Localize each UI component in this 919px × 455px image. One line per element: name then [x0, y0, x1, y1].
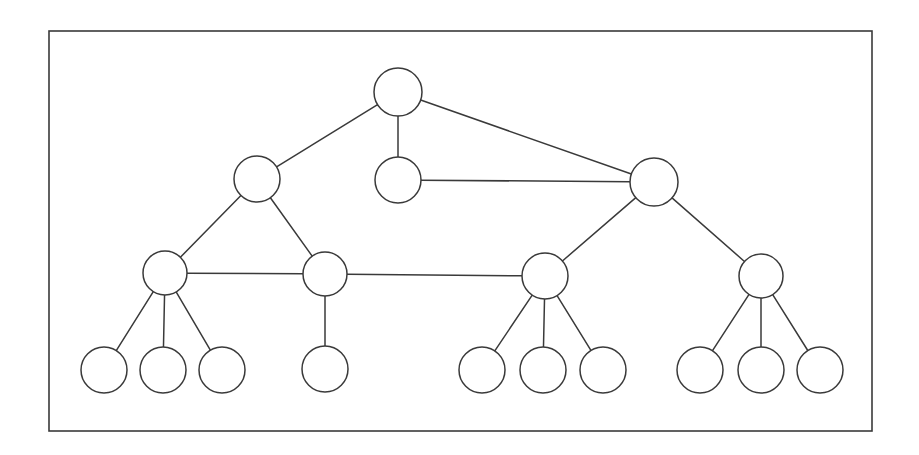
graph-node[interactable] — [797, 347, 843, 393]
node-graph-diagram — [0, 0, 919, 455]
graph-edge — [163, 295, 164, 347]
graph-edge — [116, 292, 153, 351]
graph-node-circle[interactable] — [459, 347, 505, 393]
graph-node[interactable] — [302, 346, 348, 392]
graph-edge — [672, 198, 744, 262]
graph-node-circle[interactable] — [580, 347, 626, 393]
graph-node[interactable] — [580, 347, 626, 393]
graph-node-circle[interactable] — [374, 68, 422, 116]
graph-node-circle[interactable] — [302, 346, 348, 392]
graph-node[interactable] — [520, 347, 566, 393]
graph-edge — [347, 274, 522, 276]
graph-edge — [557, 296, 591, 351]
graph-node-circle[interactable] — [140, 347, 186, 393]
graph-edge — [176, 292, 210, 350]
graph-edge — [543, 299, 544, 347]
graph-node-circle[interactable] — [303, 252, 347, 296]
graph-node-circle[interactable] — [520, 347, 566, 393]
graph-node[interactable] — [303, 252, 347, 296]
graph-edge — [180, 195, 241, 257]
graph-edge — [187, 273, 303, 274]
graph-node[interactable] — [234, 156, 280, 202]
graph-edge — [270, 198, 312, 256]
graph-node-circle[interactable] — [375, 157, 421, 203]
graph-node[interactable] — [459, 347, 505, 393]
graph-node-circle[interactable] — [143, 251, 187, 295]
graph-edge — [421, 180, 630, 182]
graph-edge — [562, 198, 635, 261]
graph-edges-layer — [116, 100, 808, 351]
graph-node-circle[interactable] — [630, 158, 678, 206]
graph-node-circle[interactable] — [199, 347, 245, 393]
graph-edge — [713, 294, 750, 350]
graph-node[interactable] — [522, 253, 568, 299]
graph-node-circle[interactable] — [81, 347, 127, 393]
graph-node[interactable] — [199, 347, 245, 393]
graph-node[interactable] — [630, 158, 678, 206]
graph-node[interactable] — [375, 157, 421, 203]
graph-edge — [495, 295, 532, 351]
graph-node[interactable] — [677, 347, 723, 393]
graph-node[interactable] — [143, 251, 187, 295]
graph-node-circle[interactable] — [739, 254, 783, 298]
graph-node[interactable] — [738, 347, 784, 393]
graph-node-circle[interactable] — [522, 253, 568, 299]
graph-node[interactable] — [739, 254, 783, 298]
diagram-canvas — [0, 0, 919, 455]
graph-edge — [421, 100, 632, 174]
graph-node-circle[interactable] — [797, 347, 843, 393]
graph-node-circle[interactable] — [677, 347, 723, 393]
graph-edge — [277, 105, 378, 167]
graph-edge — [773, 295, 808, 351]
graph-nodes-layer — [81, 68, 843, 393]
graph-node-circle[interactable] — [738, 347, 784, 393]
graph-node[interactable] — [374, 68, 422, 116]
graph-node[interactable] — [140, 347, 186, 393]
graph-node[interactable] — [81, 347, 127, 393]
graph-node-circle[interactable] — [234, 156, 280, 202]
